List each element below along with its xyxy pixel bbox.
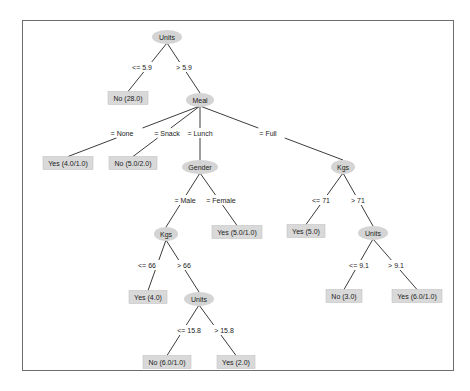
leaf-node: No (28.0) (108, 92, 148, 105)
leaf-node-label: Yes (4.0/1.0) (48, 160, 87, 168)
edge-condition-label: = Male (174, 197, 195, 204)
edge-condition-label: = None (111, 130, 134, 137)
leaf-node-label: Yes (5.0/1.0) (217, 229, 256, 237)
tree-edge (152, 43, 167, 62)
decision-tree-diagram: <= 5.9> 5.9= None= Snack= Lunch= Full= M… (0, 0, 470, 391)
tree-edge (361, 205, 373, 226)
tree-edge (167, 335, 180, 356)
split-node: Units (184, 292, 214, 306)
edge-condition-label: <= 15.8 (177, 327, 201, 334)
split-node-label: Units (191, 296, 207, 303)
tree-edge (133, 138, 158, 157)
tree-edge (343, 173, 355, 195)
split-node: Meal (186, 93, 214, 107)
leaf-node-label: Yes (6.0/1.0) (397, 293, 436, 301)
edge-condition-label: > 9.1 (388, 262, 404, 269)
edge-condition-label: = Female (206, 197, 235, 204)
leaf-node: Yes (5.0) (287, 225, 325, 238)
tree-edge (344, 270, 355, 290)
edge-condition-label: = Full (259, 130, 277, 137)
tree-edge (166, 240, 179, 260)
tree-edge (373, 239, 391, 260)
leaf-node: Yes (4.0/1.0) (43, 157, 93, 170)
leaf-node-label: Yes (5.0) (292, 228, 320, 236)
edge-condition-label: <= 71 (312, 197, 330, 204)
leaf-node: Yes (2.0) (217, 356, 255, 369)
edge-condition-label: > 66 (177, 262, 191, 269)
split-node: Kgs (154, 227, 178, 241)
leaf-node: Yes (4.0) (129, 291, 167, 304)
leaf-node: No (5.0/2.0) (109, 157, 157, 170)
tree-edge (159, 240, 166, 260)
edge-condition-label: > 71 (351, 197, 365, 204)
nodes-layer: UnitsNo (28.0)MealYes (4.0/1.0)No (5.0/2… (43, 30, 442, 369)
split-node: Gender (182, 160, 218, 174)
leaf-node-label: No (28.0) (113, 95, 142, 103)
edge-condition-label: > 15.8 (214, 327, 234, 334)
split-node-label: Units (365, 230, 381, 237)
tree-edge (200, 173, 216, 195)
leaf-node: No (3.0) (326, 290, 362, 303)
leaf-node-label: No (6.0/1.0) (149, 359, 186, 367)
split-node-label: Meal (192, 97, 208, 104)
leaf-node: Yes (5.0/1.0) (212, 226, 262, 239)
tree-edge (223, 205, 237, 226)
split-node-label: Gender (188, 164, 212, 171)
edge-condition-label: <= 5.9 (132, 64, 152, 71)
tree-edge (186, 72, 200, 93)
tree-edge (285, 138, 343, 160)
split-node-label: Kgs (337, 164, 350, 172)
edge-condition-label: <= 9.1 (349, 262, 369, 269)
tree-edge (166, 205, 180, 227)
split-node: Units (152, 30, 182, 44)
tree-edge (306, 205, 320, 225)
leaf-node-label: Yes (2.0) (222, 359, 250, 367)
split-node-label: Kgs (160, 231, 173, 239)
leaf-node: No (6.0/1.0) (143, 356, 191, 369)
split-node: Kgs (331, 160, 355, 174)
tree-edge (185, 270, 199, 292)
edge-condition-label: > 5.9 (176, 64, 192, 71)
tree-edge (400, 270, 417, 290)
leaf-node: Yes (6.0/1.0) (392, 290, 442, 303)
tree-edge (327, 173, 343, 195)
tree-edge (128, 72, 144, 92)
edge-condition-label: = Lunch (187, 130, 212, 137)
leaf-node-label: No (5.0/2.0) (115, 160, 152, 168)
leaf-node-label: Yes (4.0) (134, 294, 162, 302)
tree-edge (221, 335, 236, 356)
split-node: Units (358, 226, 388, 240)
leaf-node-label: No (3.0) (331, 293, 356, 301)
edge-condition-label: = Snack (154, 130, 180, 137)
split-node-label: Units (159, 34, 175, 41)
tree-edge (199, 305, 214, 325)
tree-edge (68, 138, 116, 157)
tree-edge (186, 305, 199, 325)
tree-edge (171, 106, 200, 128)
tree-edge (142, 106, 200, 128)
tree-edge (200, 106, 258, 128)
tree-edge (148, 270, 155, 291)
edge-condition-label: <= 66 (138, 262, 156, 269)
tree-edge (167, 43, 180, 62)
tree-edge (361, 239, 373, 260)
tree-edge (186, 173, 200, 195)
